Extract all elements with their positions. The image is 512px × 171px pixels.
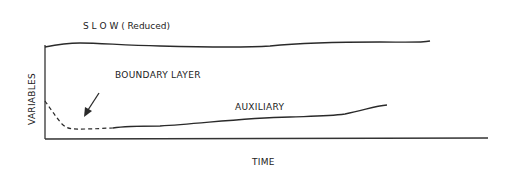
slow-label: S L O W ( Reduced) <box>83 21 170 31</box>
auxiliary-label: AUXILIARY <box>235 102 284 112</box>
arrow-shaft <box>88 93 99 110</box>
x-axis <box>45 138 488 139</box>
y-axis-label: VARIABLES <box>27 73 37 125</box>
boundary-layer-curve <box>45 101 113 129</box>
x-axis-label: TIME <box>251 157 275 167</box>
boundary-layer-label: BOUNDARY LAYER <box>115 70 201 80</box>
timescale-diagram: S L O W ( Reduced) BOUNDARY LAYER AUXILI… <box>0 0 512 171</box>
slow-curve <box>45 41 430 47</box>
arrow-head-icon <box>84 107 92 117</box>
